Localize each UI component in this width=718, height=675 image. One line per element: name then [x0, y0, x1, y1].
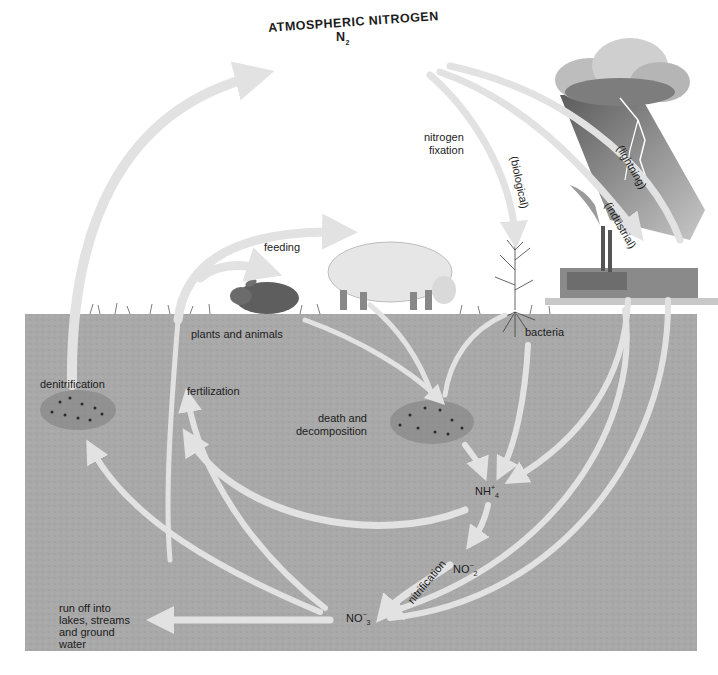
- nitrite-sub: 2: [474, 570, 478, 577]
- death-decomposition-line-2: decomposition: [296, 425, 367, 438]
- nitrogen-fixation-line-1: nitrogen: [424, 131, 464, 144]
- nitrite-label: NO−2: [453, 563, 478, 576]
- n2-formula: N2: [336, 31, 350, 44]
- grass-strip: [90, 303, 550, 314]
- death-decomposition-line-1: death and: [296, 412, 367, 425]
- run-off-line-1: run off into: [59, 602, 130, 614]
- run-off-line-4: water: [59, 638, 130, 650]
- nitrate-base: NO: [346, 612, 363, 624]
- nitrite-charge: −: [470, 562, 474, 569]
- nitrate-sub: 3: [367, 619, 371, 626]
- nitrate-label: NO−3: [346, 612, 371, 625]
- nitrogen-fixation-line-2: fixation: [424, 144, 464, 157]
- death-decomposition-label: death and decomposition: [296, 412, 367, 438]
- ammonium-label: NH+4: [475, 485, 499, 498]
- nitrate-charge: −: [363, 611, 367, 618]
- fertilization-label: fertilization: [187, 385, 240, 398]
- sheep-icon: [328, 242, 456, 310]
- rabbit-icon: [230, 278, 299, 314]
- denitrification-label: denitrification: [40, 378, 105, 391]
- ammonium-sub: 4: [495, 492, 499, 499]
- run-off-line-2: lakes, streams: [59, 614, 130, 626]
- run-off-label: run off into lakes, streams and ground w…: [59, 602, 130, 650]
- run-off-line-3: and ground: [59, 626, 130, 638]
- nitrite-base: NO: [453, 563, 470, 575]
- ammonium-base: NH: [475, 485, 491, 497]
- ammonium-charge: +: [491, 484, 495, 491]
- bacteria-label: bacteria: [525, 326, 564, 339]
- feeding-label: feeding: [264, 241, 300, 254]
- n2-sub: 2: [346, 39, 350, 46]
- diagram-canvas: [0, 0, 718, 675]
- denitrification-cluster-icon: [40, 390, 116, 430]
- nitrogen-fixation-label: nitrogen fixation: [424, 131, 464, 157]
- nitrogen-cycle-diagram: ATMOSPHERIC NITROGEN N2 nitrogen fixatio…: [0, 0, 718, 675]
- soil-layer: [25, 314, 697, 651]
- n2-base: N: [336, 30, 346, 44]
- plants-and-animals-label: plants and animals: [191, 328, 283, 341]
- arrow-feeding-rabbit: [200, 266, 265, 278]
- storm-cloud-icon: [555, 38, 705, 240]
- decomposition-cluster-icon: [390, 400, 474, 444]
